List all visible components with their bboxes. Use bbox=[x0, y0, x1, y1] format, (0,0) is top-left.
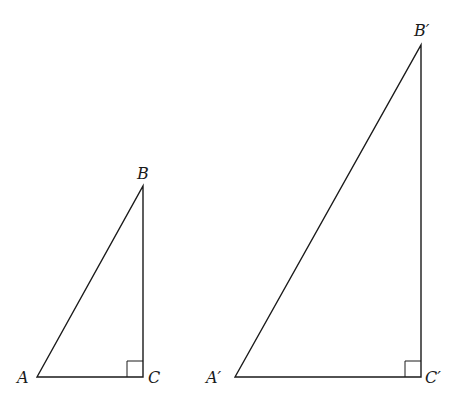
label-a-prime: A′ bbox=[204, 368, 222, 387]
right-angle-marker-c-prime bbox=[405, 361, 421, 377]
similar-triangles-diagram: A B C A′ B′ C′ bbox=[0, 0, 465, 404]
label-b: B bbox=[136, 164, 149, 183]
right-angle-marker-c bbox=[127, 361, 143, 377]
triangle-abc-outline bbox=[37, 186, 143, 377]
triangle-a-prime-outline bbox=[235, 45, 421, 377]
label-c-prime: C′ bbox=[425, 368, 441, 387]
triangle-abc: A B C bbox=[15, 164, 160, 387]
triangle-a-prime-b-prime-c-prime: A′ B′ C′ bbox=[204, 21, 441, 387]
label-b-prime: B′ bbox=[413, 21, 430, 40]
label-c: C bbox=[148, 368, 160, 387]
label-a: A bbox=[15, 368, 29, 387]
